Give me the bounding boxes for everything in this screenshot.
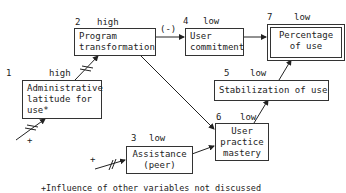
node-percentage-of-use: Percentage of use (267, 24, 345, 61)
node-administrative-latitude: Administrative latitude for use* (22, 80, 102, 119)
external-influence-marker-1: + (27, 135, 32, 145)
node-5-level: low (250, 68, 266, 78)
node-2-line-2: transformation (79, 42, 151, 53)
node-7-line-1: Percentage (274, 30, 338, 41)
node-6-number: 6 (216, 112, 221, 122)
node-6-line-2: practice (217, 137, 267, 148)
node-stabilization-of-use: Stabilization of use (214, 80, 329, 101)
node-4-line-2: commitment (190, 42, 239, 53)
external-influence-marker-3: + (90, 154, 95, 164)
node-3-level: low (149, 133, 165, 143)
footnote: +Influence of other variables not discus… (41, 183, 261, 193)
node-3-line-2: (peer) (128, 160, 191, 171)
node-7-level: low (294, 12, 310, 22)
node-7-line-2: of use (274, 41, 338, 52)
node-6-level: low (240, 112, 256, 122)
edge-1-to-2 (75, 56, 98, 80)
node-6-line-3: mastery (217, 148, 267, 159)
node-assistance-peer: Assistance (peer) (126, 146, 193, 174)
node-7-number: 7 (267, 12, 272, 22)
edge-5-to-7 (279, 60, 291, 80)
node-5-line-1: Stabilization of use (219, 85, 324, 96)
node-4-line-1: User (190, 31, 239, 42)
edge-2-to-6 (141, 56, 214, 129)
node-4-number: 4 (183, 16, 188, 26)
edge-label-negative: (-) (160, 24, 176, 34)
node-1-level: high (49, 68, 71, 78)
node-4-level: low (203, 16, 219, 26)
node-program-transformation: Program transformation (74, 28, 156, 56)
node-1-line-1: Administrative (27, 83, 97, 94)
node-1-line-2: latitude for (27, 94, 97, 105)
node-1-line-3: use* (27, 105, 97, 116)
node-user-commitment: User commitment (185, 28, 244, 56)
node-3-line-1: Assistance (128, 149, 191, 160)
node-2-level: high (97, 17, 119, 27)
node-6-line-1: User (217, 126, 267, 137)
node-5-number: 5 (224, 68, 229, 78)
node-1-number: 1 (6, 68, 11, 78)
node-2-number: 2 (75, 17, 80, 27)
node-3-number: 3 (131, 133, 136, 143)
edge-3-to-6 (192, 146, 214, 154)
node-user-practice-mastery: User practice mastery (215, 123, 269, 161)
node-2-line-1: Program (79, 31, 151, 42)
